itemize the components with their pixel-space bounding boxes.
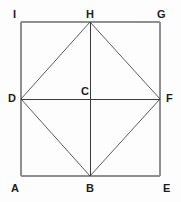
- vertex-label-E: E: [163, 183, 170, 194]
- vertex-label-A: A: [11, 183, 19, 194]
- vertex-label-D: D: [8, 93, 16, 104]
- vertex-label-C: C: [81, 86, 89, 97]
- geometry-figure: I H G D C F A B E: [0, 0, 181, 202]
- vertex-label-B: B: [86, 183, 94, 194]
- vertex-label-H: H: [86, 9, 94, 20]
- geometry-canvas: [0, 0, 181, 202]
- vertex-label-G: G: [157, 9, 166, 20]
- vertex-label-I: I: [13, 9, 16, 20]
- vertex-label-F: F: [166, 93, 173, 104]
